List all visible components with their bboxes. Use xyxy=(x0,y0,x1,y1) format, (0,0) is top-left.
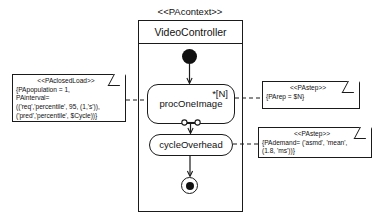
initial-node-icon xyxy=(182,49,197,64)
action-label-cycle-overhead: cycleOverhead xyxy=(159,140,222,150)
activity-diagram-canvas: <<PAcontext>> VideoController *[N] procO… xyxy=(0,0,376,219)
note-paclosedload: <<PAclosedLoad>> {PApopulation = 1, PAin… xyxy=(12,74,126,122)
action-node-proc-one-image[interactable]: *[N] procOneImage xyxy=(147,84,235,124)
action-label-proc-one-image: procOneImage xyxy=(160,99,223,109)
note-line: PAinterval= xyxy=(16,94,122,103)
note-fold-corner xyxy=(108,74,126,86)
note-line: (1.8, 'ms'))} xyxy=(262,147,368,156)
note-line: {PApopulation = 1, xyxy=(16,86,122,95)
note-stereotype-paclosedload: <<PAclosedLoad>> xyxy=(16,77,122,86)
note-fold-corner xyxy=(354,127,372,139)
note-line: ('pred','percentile', $Cycle))} xyxy=(16,112,122,121)
note-pastep-demand: <<PAstep>> {PAdemand= ('asmd', 'mean', (… xyxy=(258,127,372,158)
note-line: (('req','percentile', 95, (1,'s')), xyxy=(16,103,122,112)
frame-title: VideoController xyxy=(139,21,242,44)
note-fold-corner xyxy=(342,81,360,93)
activity-final-node-icon xyxy=(181,177,198,194)
note-pastep-rep: <<PAstep>> {PArep = $N} xyxy=(262,81,360,109)
note-line: {PArep = $N} xyxy=(266,93,356,102)
multiplicity-label: *[N] xyxy=(212,88,228,99)
note-line: {PAdemand= ('asmd', 'mean', xyxy=(262,139,368,148)
context-stereotype-label: <<PAcontext>> xyxy=(133,6,247,17)
note-stereotype-pastep-demand: <<PAstep>> xyxy=(262,130,368,139)
subactivity-icon xyxy=(181,112,201,119)
action-node-cycle-overhead[interactable]: cycleOverhead xyxy=(149,134,233,156)
